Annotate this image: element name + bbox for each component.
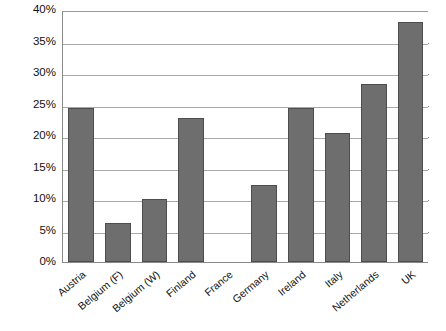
y-axis-tick-label: 40% bbox=[0, 3, 56, 15]
bar-slot bbox=[136, 12, 173, 262]
bar[interactable] bbox=[398, 22, 424, 262]
y-axis-tick-label: 0% bbox=[0, 255, 56, 267]
bar[interactable] bbox=[105, 223, 131, 262]
y-axis-tick-label: 20% bbox=[0, 129, 56, 141]
y-axis-tick-label: 5% bbox=[0, 224, 56, 236]
bar-slot bbox=[100, 12, 137, 262]
bar[interactable] bbox=[142, 199, 168, 262]
bar-slot bbox=[356, 12, 393, 262]
bar-slot bbox=[392, 12, 429, 262]
bar-slot bbox=[173, 12, 210, 262]
bar-slot bbox=[283, 12, 320, 262]
y-axis-tick-label: 15% bbox=[0, 161, 56, 173]
bar-slot bbox=[319, 12, 356, 262]
plot-area bbox=[62, 11, 428, 263]
bar[interactable] bbox=[325, 133, 351, 262]
y-axis-tick-label: 25% bbox=[0, 98, 56, 110]
bar-slot bbox=[209, 12, 246, 262]
y-axis-tick-label: 10% bbox=[0, 192, 56, 204]
y-axis-tick-label: 30% bbox=[0, 66, 56, 78]
bar[interactable] bbox=[361, 84, 387, 262]
y-axis-tick-label: 35% bbox=[0, 35, 56, 47]
bar[interactable] bbox=[251, 185, 277, 262]
bar[interactable] bbox=[68, 108, 94, 262]
bar-slot bbox=[246, 12, 283, 262]
bar-chart: 0%5%10%15%20%25%30%35%40% AustriaBelgium… bbox=[0, 0, 446, 331]
bar[interactable] bbox=[288, 108, 314, 262]
bar[interactable] bbox=[178, 118, 204, 262]
bar-slot bbox=[63, 12, 100, 262]
